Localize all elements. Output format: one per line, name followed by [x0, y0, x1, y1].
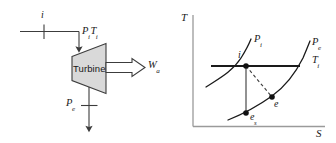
curve-isobar-pi: [206, 39, 251, 87]
ts-axes-group: [193, 15, 325, 127]
curve-label-pi: Pi: [254, 34, 262, 47]
line-actual-process: [246, 66, 272, 97]
turbine-device-label: Turbine: [73, 63, 106, 74]
state-point-i-marker: [243, 63, 249, 69]
figure-vector-layer: [0, 0, 336, 143]
work-output-arrow-group: [106, 59, 145, 77]
inlet-pipe-group: [20, 25, 79, 50]
ts-state-label-i: i: [238, 50, 241, 60]
thermodynamics-figure: i PiTi Turbine Wa Pe T S Pi Pe Ti i e es: [0, 0, 336, 143]
outlet-pipe-group: [81, 87, 98, 129]
inlet-state-label: i: [41, 10, 44, 20]
state-point-es-marker: [243, 110, 249, 116]
ts-state-label-e: e: [274, 99, 278, 109]
ts-axis-y-label: T: [181, 12, 187, 23]
outlet-properties-label: Pe: [66, 98, 76, 111]
isotherm-label-ti: Ti: [312, 55, 320, 68]
inlet-properties-label: PiTi: [82, 26, 98, 39]
curve-label-pe: Pe: [312, 37, 322, 50]
work-output-label: Wa: [148, 60, 160, 73]
work-output-block-arrow: [106, 59, 145, 77]
ts-axis-x-label: S: [316, 128, 322, 139]
ts-state-label-es: es: [250, 112, 257, 125]
